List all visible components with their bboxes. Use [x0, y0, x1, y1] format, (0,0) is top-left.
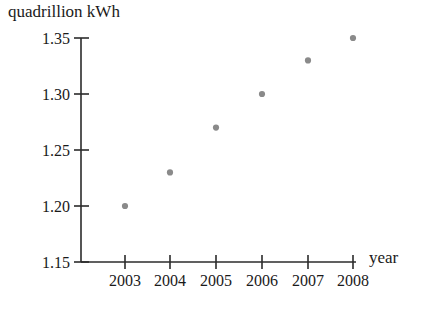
y-tick-label: 1.25 — [10, 142, 70, 160]
x-tick-label: 2003 — [102, 272, 148, 290]
x-tick-label: 2005 — [193, 272, 239, 290]
x-tick-label: 2006 — [239, 272, 285, 290]
x-tick-label: 2004 — [147, 272, 193, 290]
x-tick-label: 2008 — [330, 272, 376, 290]
data-point — [213, 125, 219, 131]
y-tick-label: 1.20 — [10, 198, 70, 216]
data-point-group — [122, 35, 356, 209]
data-point — [167, 169, 173, 175]
y-tick-label: 1.30 — [10, 86, 70, 104]
data-point — [259, 91, 265, 97]
y-tick-label: 1.35 — [10, 30, 70, 48]
data-point — [305, 57, 311, 63]
y-tick-label: 1.15 — [10, 254, 70, 272]
x-tick-label: 2007 — [285, 272, 331, 290]
data-point — [350, 35, 356, 41]
data-point — [122, 203, 128, 209]
scatter-chart: quadrillion kWh year 1.35 1.30 1.25 1.20 — [0, 0, 426, 313]
